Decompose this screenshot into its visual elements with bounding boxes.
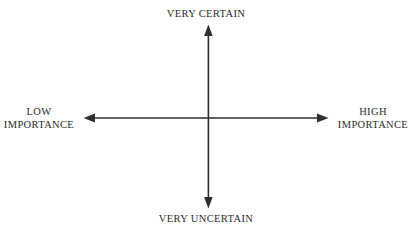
left-arrowhead-icon <box>84 114 96 123</box>
diagram-canvas: VERY CERTAIN VERY UNCERTAIN LOW IMPORTAN… <box>0 0 412 237</box>
axis-label-high-importance: HIGH IMPORTANCE <box>334 105 412 131</box>
up-arrowhead-icon <box>204 25 213 37</box>
down-arrowhead-icon <box>204 197 213 209</box>
axis-label-very-uncertain: VERY UNCERTAIN <box>0 212 412 225</box>
axis-label-low-importance: LOW IMPORTANCE <box>0 105 78 131</box>
right-arrowhead-icon <box>317 114 329 123</box>
axis-label-high-importance-line1: HIGH <box>334 105 412 118</box>
axis-label-low-importance-line2: IMPORTANCE <box>0 118 78 131</box>
axis-label-very-certain: VERY CERTAIN <box>0 7 412 20</box>
axis-label-low-importance-line1: LOW <box>0 105 78 118</box>
axis-label-high-importance-line2: IMPORTANCE <box>334 118 412 131</box>
